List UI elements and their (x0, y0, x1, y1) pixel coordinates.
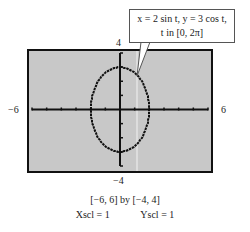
ymin-label: −4 (113, 176, 124, 186)
yscl-caption: Yscl = 1 (140, 209, 174, 220)
ymax-label: 4 (116, 38, 121, 48)
window-caption: [−6, 6] by [−4, 4] (0, 194, 250, 205)
xmin-label: −6 (8, 105, 19, 115)
equation-callout: x = 2 sin t, y = 3 cos t, t in [0, 2π] (129, 9, 235, 43)
xmax-label: 6 (221, 105, 226, 115)
xscl-caption: Xscl = 1 (76, 209, 110, 220)
scale-caption: Xscl = 1 Yscl = 1 (0, 209, 250, 220)
callout-line-2: t in [0, 2π] (130, 26, 234, 40)
callout-line-1: x = 2 sin t, y = 3 cos t, (130, 12, 234, 26)
